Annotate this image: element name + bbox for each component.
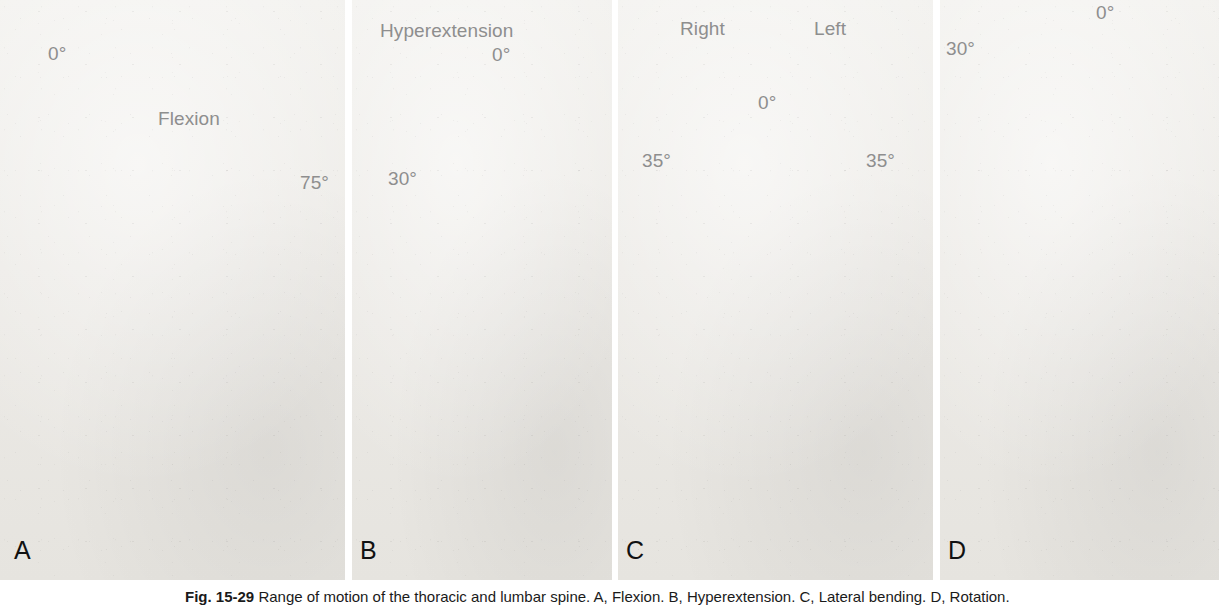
caption-line: Fig. 15-29 Range of motion of the thorac… — [185, 588, 1010, 605]
panel-c-lateral-bending: Right Left 0° 35° 35° — [618, 0, 933, 580]
label-range-75: 75° — [300, 172, 329, 194]
panel-letter-a: A — [14, 536, 31, 565]
label-range-35-left: 35° — [866, 150, 895, 172]
panel-c-photograph: Right Left 0° 35° 35° — [618, 0, 933, 580]
label-neutral-0: 0° — [758, 92, 776, 114]
panel-b-hyperextension: Hyperextension 0° 30° — [352, 0, 612, 580]
label-right: Right — [680, 18, 725, 40]
label-range-35-right: 35° — [642, 150, 671, 172]
label-neutral-0: 0° — [48, 43, 66, 65]
label-range-30: 30° — [388, 168, 417, 190]
panel-letter-b: B — [360, 536, 377, 565]
film-grain — [0, 0, 345, 580]
figure-caption: Fig. 15-29 Range of motion of the thorac… — [0, 588, 1219, 607]
film-grain — [352, 0, 612, 580]
film-grain — [618, 0, 933, 580]
figure-plate: 0° Flexion 75° A — [0, 0, 1219, 607]
label-neutral-0: 0° — [492, 44, 510, 66]
label-left: Left — [814, 18, 846, 40]
label-flexion: Flexion — [158, 108, 220, 130]
panel-d-photograph: 0° 30° — [940, 0, 1219, 580]
panel-b-photograph: Hyperextension 0° 30° — [352, 0, 612, 580]
panel-d-rotation: 0° 30° — [940, 0, 1219, 580]
film-grain — [940, 0, 1219, 580]
caption-label: Fig. 15-29 — [185, 588, 254, 605]
label-hyperextension: Hyperextension — [380, 20, 513, 42]
label-range-30: 30° — [946, 38, 975, 60]
label-neutral-0: 0° — [1096, 2, 1114, 24]
caption-body: Range of motion of the thoracic and lumb… — [258, 588, 1009, 605]
panel-letter-c: C — [626, 536, 644, 565]
panel-letter-d: D — [948, 536, 966, 565]
panel-a-flexion: 0° Flexion 75° — [0, 0, 345, 580]
panel-a-photograph: 0° Flexion 75° — [0, 0, 345, 580]
